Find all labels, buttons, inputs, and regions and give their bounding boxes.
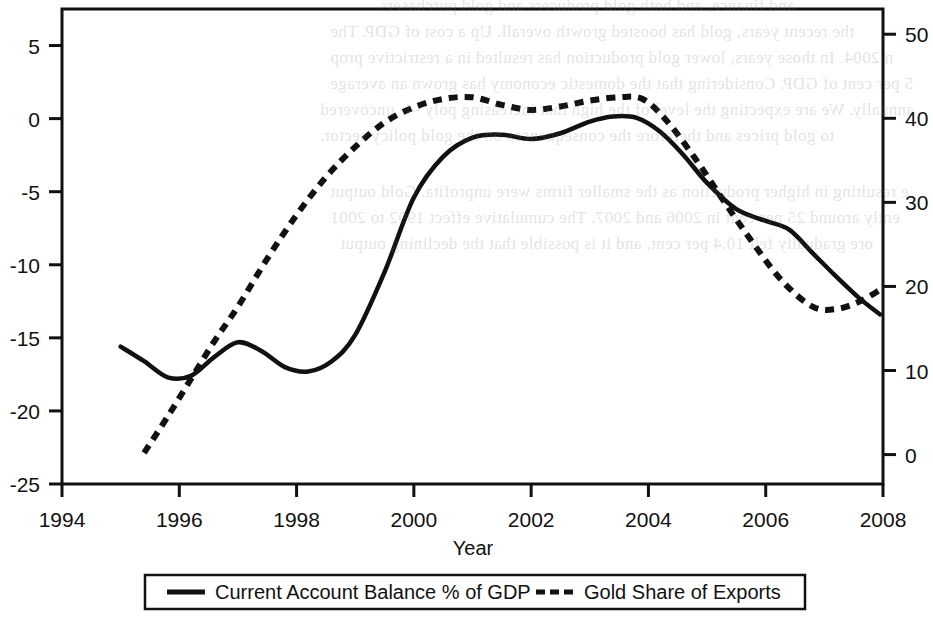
y-tick-label-left: -20 [10, 400, 40, 423]
plot-frame [62, 9, 883, 484]
y-tick-label-right: 40 [905, 107, 928, 130]
y-tick-label-left: -5 [21, 181, 40, 204]
x-tick-label: 2004 [625, 508, 672, 531]
y-tick-label-left: -10 [10, 254, 40, 277]
y-tick-label-left: -15 [10, 327, 40, 350]
y-axis-left-ticks: 50-5-10-15-20-25 [10, 35, 62, 496]
x-tick-label: 1996 [156, 508, 203, 531]
y-tick-label-right: 50 [905, 23, 928, 46]
line-chart: 19941996199820002002200420062008 50-5-10… [0, 0, 933, 633]
x-tick-label: 1998 [273, 508, 320, 531]
series-line-gold-share-of-exports [144, 97, 880, 453]
x-axis-title: Year [453, 537, 494, 559]
x-tick-label: 2000 [390, 508, 437, 531]
x-axis-ticks: 19941996199820002002200420062008 [39, 484, 907, 531]
y-tick-label-left: 0 [28, 108, 40, 131]
y-tick-label-right: 30 [905, 191, 928, 214]
series-line-current-account-balance-of-gdp [121, 116, 880, 379]
y-tick-label-right: 20 [905, 275, 928, 298]
y-axis-right-ticks: 50403020100 [883, 23, 928, 466]
legend-label-gold-share: Gold Share of Exports [584, 581, 781, 603]
y-tick-label-left: -25 [10, 473, 40, 496]
y-tick-label-right: 0 [905, 444, 917, 467]
series-lines [121, 97, 880, 453]
chart-legend: Current Account Balance % of GDP Gold Sh… [145, 575, 805, 609]
x-tick-label: 2002 [508, 508, 555, 531]
x-tick-label: 1994 [39, 508, 86, 531]
chart-figure: and finance, and both gold producers and… [0, 0, 933, 633]
y-tick-label-left: 5 [28, 35, 40, 58]
y-tick-label-right: 10 [905, 360, 928, 383]
legend-label-current-account: Current Account Balance % of GDP [215, 581, 531, 603]
x-tick-label: 2006 [742, 508, 789, 531]
x-tick-label: 2008 [860, 508, 907, 531]
